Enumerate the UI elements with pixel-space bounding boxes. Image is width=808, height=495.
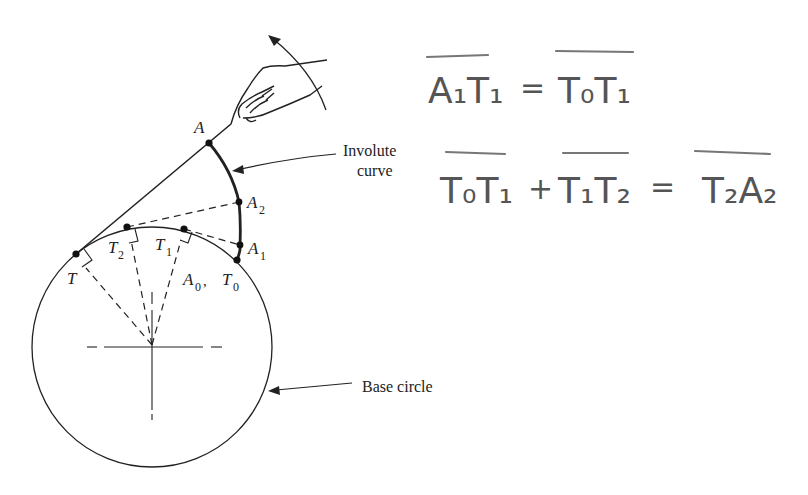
point-A [205, 139, 212, 146]
label-T0: T [222, 270, 233, 289]
equation2-term2: T₁T₂ [557, 170, 631, 211]
label-A0: A [182, 270, 194, 289]
label-A2-sub: 2 [259, 203, 265, 217]
involute-curve-label-line1: Involute [343, 142, 396, 159]
involute-curve-label-line2: curve [357, 162, 393, 179]
point-A1 [237, 242, 244, 249]
point-T0 [233, 256, 240, 263]
point-A2 [236, 199, 243, 206]
label-A2: A [246, 193, 258, 212]
label-T2-sub: 2 [118, 248, 124, 262]
equation1-lhs: A₁T₁ [428, 70, 503, 111]
point-T [72, 250, 79, 257]
label-T1: T [155, 235, 166, 254]
point-T2 [123, 223, 130, 230]
equation2-term1: T₀T₁ [439, 170, 513, 211]
involute-curve [209, 143, 240, 260]
label-A1: A [247, 239, 259, 258]
label-A1-sub: 1 [260, 249, 266, 263]
label-comma: , [203, 273, 207, 289]
label-T: T [67, 269, 78, 288]
handwritten-equation-2: T₀T₁ + T₁T₂ = T₂A₂ [439, 151, 777, 211]
equation2-rhs: T₂A₂ [701, 170, 777, 211]
label-T1-sub: 1 [166, 245, 172, 259]
label-A0-sub: 0 [195, 280, 201, 294]
base-circle-leader-arrow [268, 383, 352, 395]
rotation-arrow [268, 35, 326, 110]
equation2-equals: = [650, 169, 675, 204]
center-lines [87, 292, 222, 420]
point-T1 [180, 225, 187, 232]
label-T0-sub: 0 [233, 280, 239, 294]
hand-drawing [231, 60, 327, 124]
label-A: A [193, 118, 205, 137]
equation1-equals: = [520, 70, 545, 105]
base-circle-label: Base circle [362, 378, 433, 395]
involute-diagram: A A 2 A 1 T 2 T 1 T A 0 , T 0 Involute c… [0, 0, 808, 495]
tangent-dashed-lines [127, 202, 240, 245]
equation2-plus1: + [528, 171, 553, 206]
handwritten-equation-1: A₁T₁ = T₀T₁ [427, 51, 633, 111]
equation1-rhs: T₀T₁ [557, 70, 631, 111]
involute-leader-arrow [232, 154, 336, 174]
